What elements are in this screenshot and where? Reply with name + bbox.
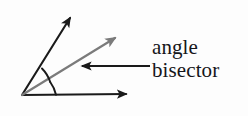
upper-ray [22, 18, 70, 95]
lower-ray [22, 94, 126, 95]
lower-angle-arc [50, 82, 56, 95]
figure-canvas: angle bisector [0, 0, 248, 116]
label-line-1: angle [152, 36, 246, 59]
label-line-2: bisector [152, 59, 246, 82]
angle-bisector-label: angle bisector [152, 36, 246, 81]
